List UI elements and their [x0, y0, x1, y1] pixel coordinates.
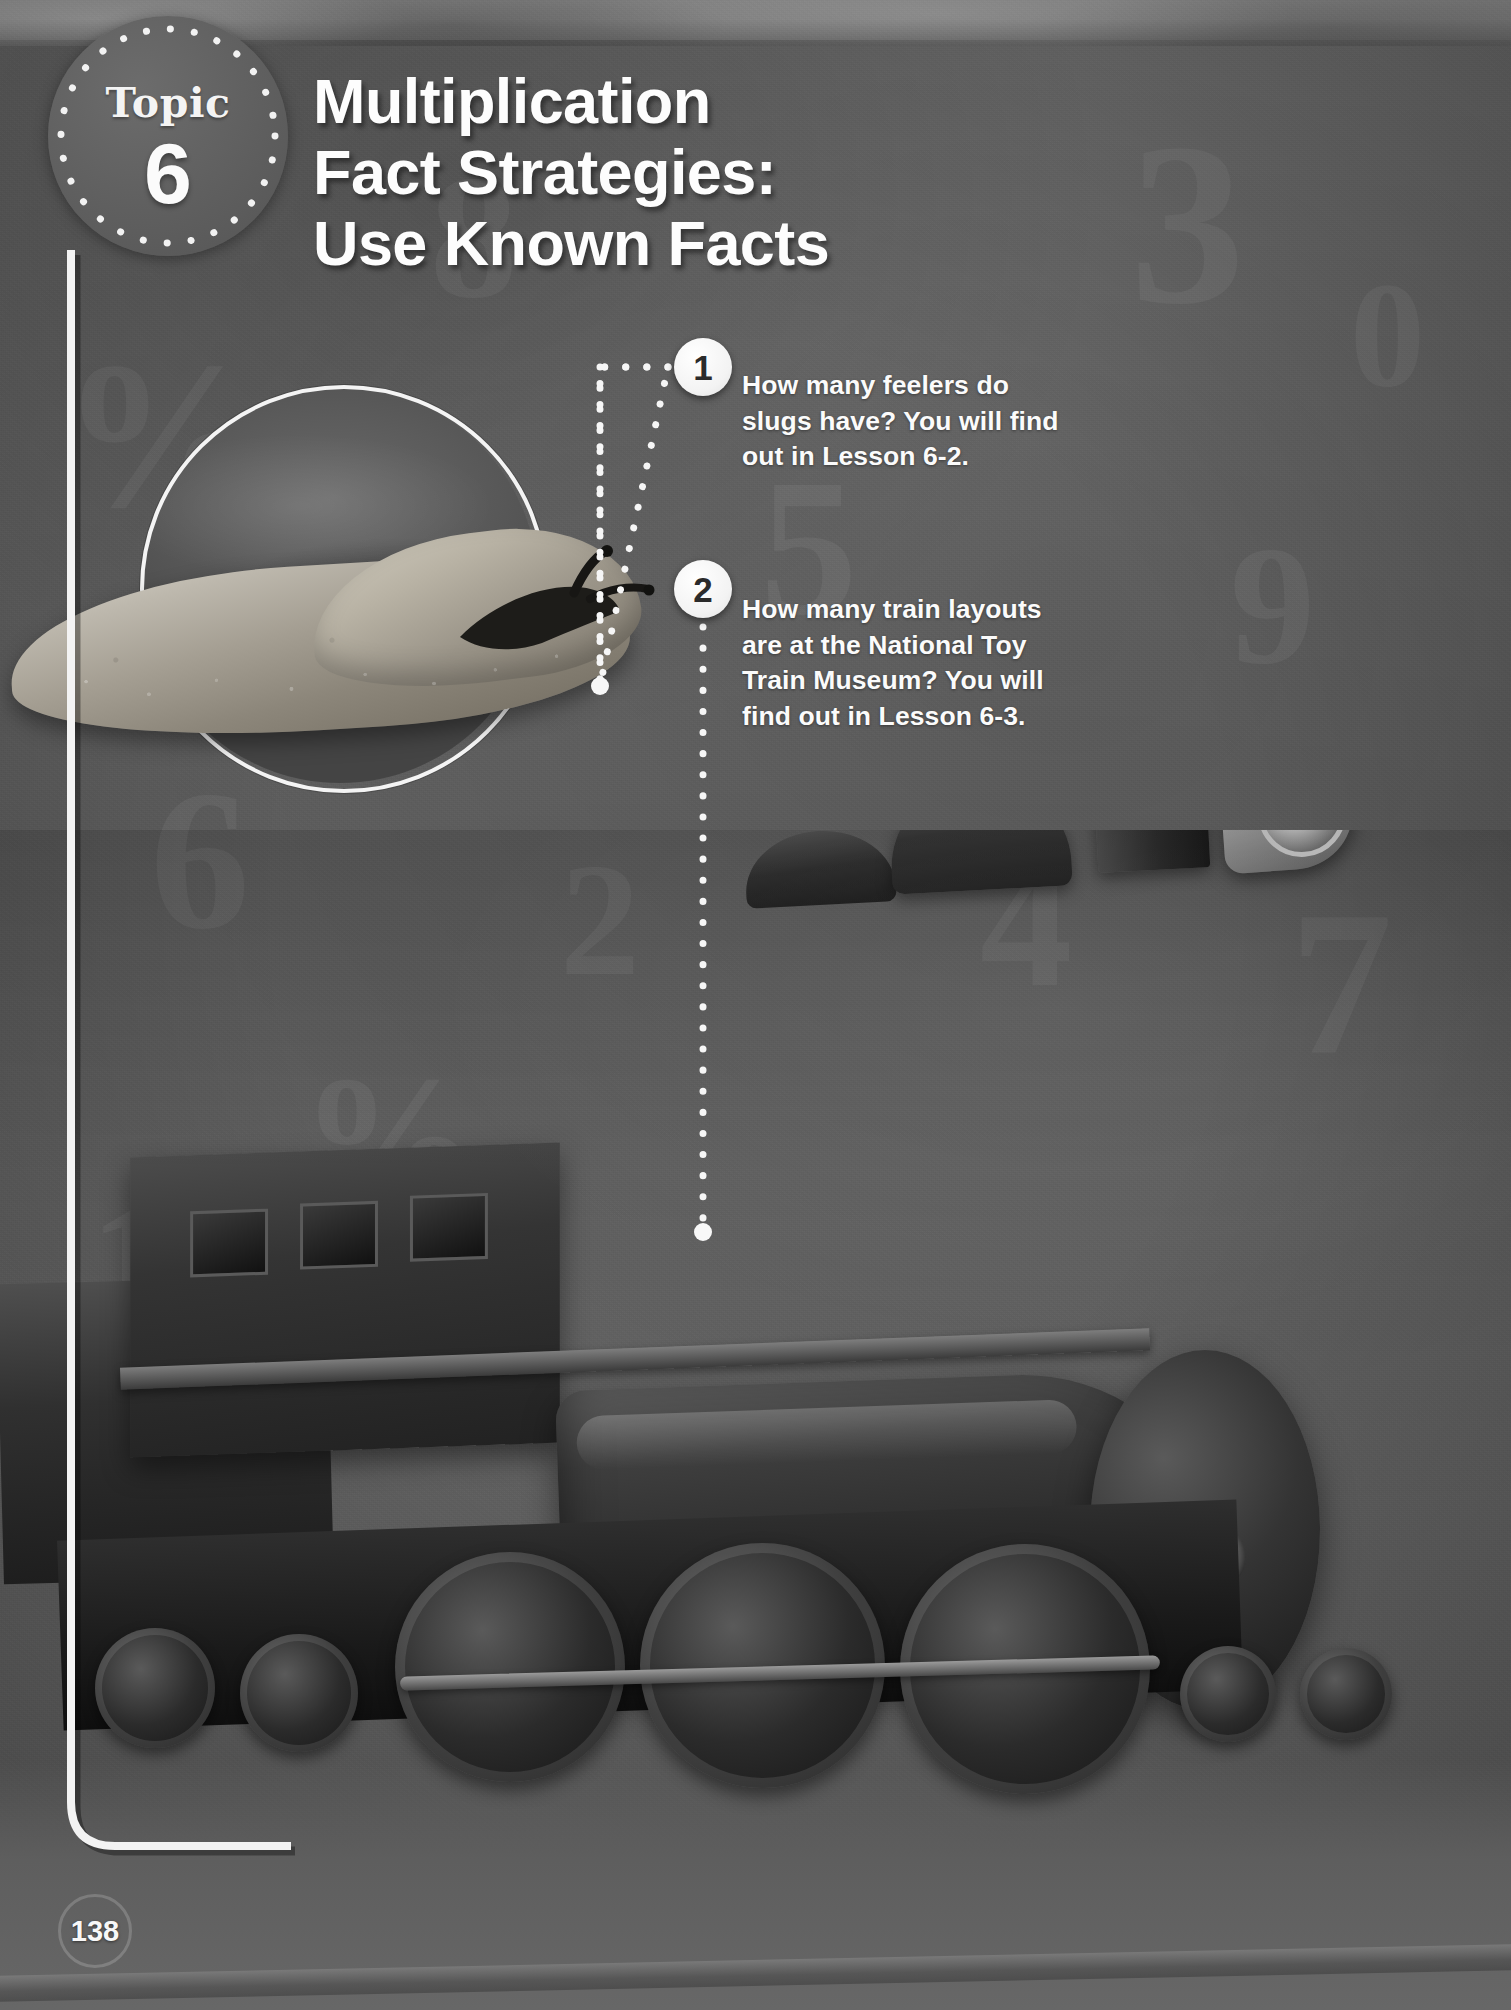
callout-text-2: How many train layouts are at the Nation… [742, 592, 1072, 734]
slug-photo [0, 355, 680, 805]
callout-badge-1[interactable]: 1 [674, 338, 732, 396]
callout-text-1: How many feelers do slugs have? You will… [742, 368, 1072, 475]
page-title: Multiplication Fact Strategies: Use Know… [313, 66, 1113, 280]
slug-body [10, 505, 670, 775]
page-number: 138 [58, 1894, 132, 1968]
topic-opener-page: % 8 5 3 9 6 2 4 7 % 1 0 [0, 0, 1511, 2010]
slug-head-and-feelers [450, 545, 670, 675]
topic-badge: Topic 6 [48, 16, 288, 256]
locomotive-photo [0, 830, 1511, 2010]
title-line-3: Use Known Facts [313, 208, 1113, 279]
topic-label: Topic [106, 79, 231, 127]
title-line-1: Multiplication [313, 66, 1113, 137]
title-line-2: Fact Strategies: [313, 137, 1113, 208]
callout-badge-2[interactable]: 2 [674, 560, 732, 618]
topic-number: 6 [144, 133, 192, 215]
locomotive-haze [0, 830, 1511, 2010]
